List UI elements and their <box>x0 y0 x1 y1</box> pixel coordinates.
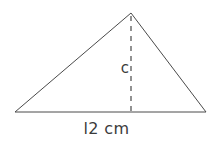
height-label: c <box>0 61 129 76</box>
geometry-figure-canvas: c l2 cm <box>0 0 213 141</box>
base-length-label: l2 cm <box>0 121 213 137</box>
